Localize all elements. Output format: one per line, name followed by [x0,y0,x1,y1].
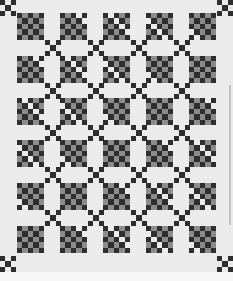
nine-patch-block [17,56,44,83]
nine-patch-block [103,226,130,253]
patch-cell [168,35,173,40]
patch-cell [168,162,173,167]
nine-patch-block [17,13,44,40]
nine-patch-block [17,140,44,167]
nine-patch-block [60,56,87,83]
patch-cell [11,11,16,16]
patch-cell [185,221,190,226]
patch-cell [82,35,87,40]
patch-cell [82,248,87,253]
patch-cell [125,162,130,167]
patch-cell [142,221,147,226]
nine-patch-block [103,13,130,40]
nine-patch-block [103,183,130,210]
chain-connector [131,167,147,183]
nine-patch-block [146,226,173,253]
nine-patch-block [189,183,216,210]
nine-patch-block [60,226,87,253]
nine-patch-block [60,140,87,167]
nine-patch-block [60,13,87,40]
nine-patch-block [60,183,87,210]
nine-patch-block [146,140,173,167]
patch-cell [56,221,61,226]
chain-connector [45,167,61,183]
quilt-right-edge [229,85,231,225]
patch-cell [211,120,216,125]
patch-cell [211,162,216,167]
nine-patch-block [103,56,130,83]
chain-connector [0,0,16,16]
patch-cell [142,51,147,56]
chain-connector [174,125,190,141]
patch-cell [82,162,87,167]
chain-connector [131,40,147,56]
patch-cell [39,162,44,167]
patch-cell [56,94,61,99]
chain-connector [45,40,61,56]
photo-bottom-margin [0,272,233,281]
patch-cell [185,178,190,183]
chain-connector [174,210,190,226]
chain-connector [88,83,104,99]
patch-cell [228,11,233,16]
patch-cell [168,248,173,253]
chain-connector [0,256,16,272]
nine-patch-block [146,13,173,40]
patch-cell [142,136,147,141]
chain-connector [88,167,104,183]
patch-cell [39,205,44,210]
chain-connector [174,167,190,183]
patch-cell [125,248,130,253]
patch-cell [185,136,190,141]
chain-connector [217,0,233,16]
patch-cell [142,94,147,99]
patch-cell [99,178,104,183]
nine-patch-block [17,226,44,253]
quilt-photo [0,0,233,272]
patch-cell [168,78,173,83]
chain-connector [88,125,104,141]
patch-cell [125,78,130,83]
patch-cell [99,51,104,56]
patch-cell [211,78,216,83]
nine-patch-block [17,98,44,125]
nine-patch-block [103,140,130,167]
patch-cell [125,120,130,125]
chain-connector [131,210,147,226]
nine-patch-block [189,226,216,253]
patch-cell [168,205,173,210]
patch-cell [99,136,104,141]
patch-cell [56,51,61,56]
patch-cell [56,136,61,141]
nine-patch-block [146,98,173,125]
nine-patch-block [103,98,130,125]
patch-cell [39,248,44,253]
patch-cell [125,35,130,40]
chain-connector [45,125,61,141]
chain-connector [88,210,104,226]
patch-cell [99,221,104,226]
patch-cell [56,178,61,183]
patch-cell [99,94,104,99]
nine-patch-block [17,183,44,210]
patch-cell [142,178,147,183]
nine-patch-block [146,56,173,83]
nine-patch-block [60,98,87,125]
patch-cell [211,248,216,253]
patch-cell [168,120,173,125]
chain-connector [174,40,190,56]
patch-cell [185,94,190,99]
chain-connector [45,83,61,99]
patch-cell [82,78,87,83]
nine-patch-block [189,56,216,83]
chain-connector [131,83,147,99]
nine-patch-block [189,140,216,167]
patch-cell [82,205,87,210]
chain-connector [131,125,147,141]
patch-cell [39,78,44,83]
nine-patch-block [189,98,216,125]
chain-connector [174,83,190,99]
chain-connector [217,256,233,272]
patch-cell [82,120,87,125]
patch-cell [185,51,190,56]
